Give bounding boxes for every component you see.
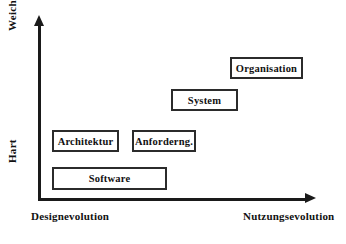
arrow-up-icon — [34, 15, 44, 26]
y-axis-line — [38, 24, 41, 201]
evolution-diagram: Weich Hart Designevolution Nutzungsevolu… — [0, 0, 346, 244]
node-label: Software — [89, 173, 131, 184]
node-box-organisation[interactable]: Organisation — [230, 57, 303, 79]
node-box-anforderung[interactable]: Anforderng. — [132, 130, 196, 152]
x-axis-left-label: Designevolution — [31, 210, 109, 222]
node-label: Anforderng. — [135, 136, 193, 147]
x-axis-line — [38, 198, 309, 201]
node-label: System — [188, 95, 221, 106]
node-box-system[interactable]: System — [171, 89, 238, 111]
node-box-software[interactable]: Software — [52, 167, 167, 190]
node-label: Organisation — [236, 63, 297, 74]
x-axis-right-label: Nutzungsevolution — [243, 210, 334, 222]
y-axis-top-label: Weich — [6, 0, 18, 31]
node-label: Architektur — [58, 136, 114, 147]
arrow-right-icon — [305, 193, 316, 203]
y-axis-bottom-label: Hart — [6, 139, 18, 163]
node-box-architektur[interactable]: Architektur — [52, 130, 119, 152]
